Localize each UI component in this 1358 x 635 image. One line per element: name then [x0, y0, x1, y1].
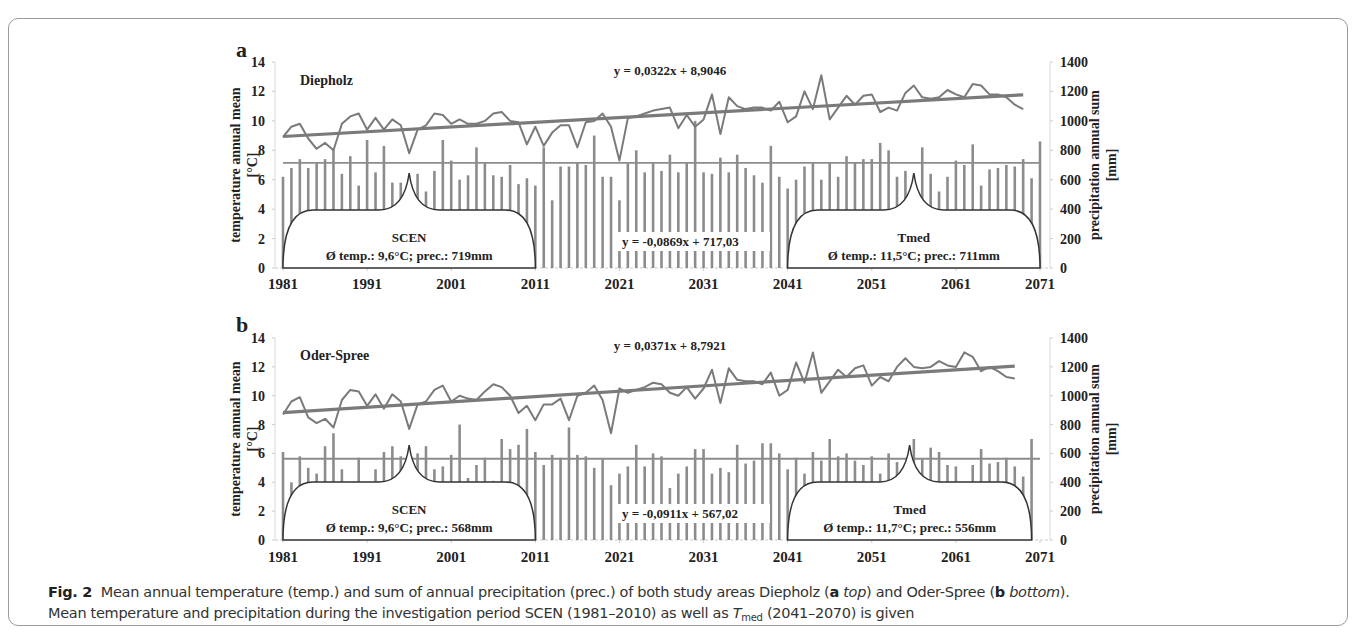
x-tick: 2061 — [941, 276, 971, 292]
period-stats: Ø temp.: 9,6°C; prec.: 568mm — [326, 520, 493, 535]
caption-text: ) and Oder-Spree ( — [866, 584, 995, 600]
panel-a-chart: 0246810121402004006008001000120014001981… — [228, 37, 1119, 292]
caption-top: top — [843, 584, 866, 600]
caption-panel-b: b — [995, 584, 1005, 600]
caption-text: Mean annual temperature (temp.) and sum … — [101, 584, 830, 600]
period-label: SCEN — [392, 230, 427, 245]
temperature-trend-label: y = 0,0371x + 8,7921 — [614, 338, 726, 353]
y-right-unit: [mm] — [1104, 423, 1119, 456]
panel-b-chart: 0246810121402004006008001000120014001981… — [228, 312, 1119, 565]
x-tick: 1991 — [352, 549, 382, 565]
caption-line-2: Mean temperature and precipitation durin… — [48, 603, 1338, 628]
panel-label: a — [236, 37, 247, 62]
x-tick: 1991 — [352, 276, 382, 292]
temperature-trend-line — [283, 95, 1023, 137]
period-stats: Ø temp.: 9,6°C; prec.: 719mm — [326, 248, 493, 263]
caption-text: Mean temperature and precipitation durin… — [48, 605, 733, 621]
panel-title: Diepholz — [300, 73, 353, 88]
x-tick: 2031 — [689, 549, 719, 565]
temperature-trend-line — [283, 366, 1015, 413]
y-right-label: precipitation annual sum — [1087, 364, 1102, 514]
y-left-tick: 14 — [251, 55, 265, 70]
y-right-label: precipitation annual sum — [1087, 90, 1102, 240]
y-left-tick: 2 — [258, 504, 265, 519]
y-right-tick: 0 — [1060, 261, 1067, 276]
temperature-line — [283, 352, 1015, 433]
caption-line-1: Fig. 2 Mean annual temperature (temp.) a… — [48, 582, 1338, 603]
panel-title: Oder-Spree — [300, 348, 369, 363]
y-left-tick: 10 — [251, 114, 265, 129]
y-right-tick: 1200 — [1060, 84, 1088, 99]
x-tick: 1981 — [268, 276, 298, 292]
figure-svg: 0246810121402004006008001000120014001981… — [0, 0, 1358, 635]
y-right-tick: 400 — [1060, 202, 1081, 217]
y-left-label: temperature annual mean — [228, 87, 243, 242]
y-left-tick: 14 — [251, 331, 265, 346]
x-tick: 2071 — [1025, 276, 1055, 292]
y-right-tick: 1200 — [1060, 360, 1088, 375]
y-right-tick: 400 — [1060, 475, 1081, 490]
y-right-tick: 1000 — [1060, 389, 1088, 404]
x-tick: 2021 — [604, 276, 634, 292]
y-left-tick: 4 — [258, 475, 265, 490]
period-stats: Ø temp.: 11,7°C; prec.: 556mm — [823, 520, 996, 535]
x-tick: 1981 — [268, 549, 298, 565]
y-right-tick: 600 — [1060, 173, 1081, 188]
caption-tmed-T: T — [733, 605, 742, 621]
x-tick: 2041 — [773, 276, 803, 292]
period-label: Tmed — [898, 230, 931, 245]
y-right-tick: 200 — [1060, 232, 1081, 247]
precipitation-trend-label: y = -0,0911x + 567,02 — [622, 506, 738, 521]
figure-caption: Fig. 2 Mean annual temperature (temp.) a… — [48, 582, 1338, 628]
x-tick: 2051 — [857, 276, 887, 292]
y-right-tick: 800 — [1060, 418, 1081, 433]
x-tick: 2071 — [1025, 549, 1055, 565]
y-left-tick: 0 — [258, 261, 265, 276]
x-tick: 2001 — [436, 276, 466, 292]
y-left-label: temperature annual mean — [228, 361, 243, 516]
x-tick: 2051 — [857, 549, 887, 565]
y-right-tick: 600 — [1060, 446, 1081, 461]
y-right-tick: 1400 — [1060, 55, 1088, 70]
y-left-tick: 2 — [258, 232, 265, 247]
period-label: SCEN — [392, 502, 427, 517]
caption-text: (2041–2070) is given — [763, 605, 914, 621]
y-right-tick: 1000 — [1060, 114, 1088, 129]
y-left-tick: 12 — [251, 360, 265, 375]
y-left-tick: 0 — [258, 533, 265, 548]
caption-tmed-sub: med — [741, 612, 762, 623]
x-tick: 2001 — [436, 549, 466, 565]
temperature-trend-label: y = 0,0322x + 8,9046 — [614, 63, 727, 78]
y-left-tick: 4 — [258, 202, 265, 217]
caption-panel-a: a — [829, 584, 839, 600]
temperature-line — [283, 75, 1023, 160]
caption-text: ). — [1060, 584, 1070, 600]
x-tick: 2011 — [521, 276, 550, 292]
period-stats: Ø temp.: 11,5°C; prec.: 711mm — [828, 248, 1000, 263]
y-right-tick: 0 — [1060, 533, 1067, 548]
y-left-tick: 12 — [251, 84, 265, 99]
caption-label: Fig. 2 — [48, 584, 92, 600]
x-tick: 2011 — [521, 549, 550, 565]
y-right-tick: 200 — [1060, 504, 1081, 519]
panel-label: b — [236, 312, 248, 337]
precipitation-trend-label: y = -0,0869x + 717,03 — [622, 234, 739, 249]
y-left-tick: 10 — [251, 389, 265, 404]
x-tick: 2031 — [689, 276, 719, 292]
x-tick: 2021 — [604, 549, 634, 565]
y-right-tick: 800 — [1060, 143, 1081, 158]
x-tick: 2061 — [941, 549, 971, 565]
x-tick: 2041 — [773, 549, 803, 565]
y-left-unit: [°C] — [245, 426, 260, 451]
y-left-unit: [°C] — [245, 152, 260, 177]
y-right-unit: [mm] — [1104, 149, 1119, 182]
y-right-tick: 1400 — [1060, 331, 1088, 346]
caption-bottom: bottom — [1009, 584, 1060, 600]
period-label: Tmed — [893, 502, 926, 517]
